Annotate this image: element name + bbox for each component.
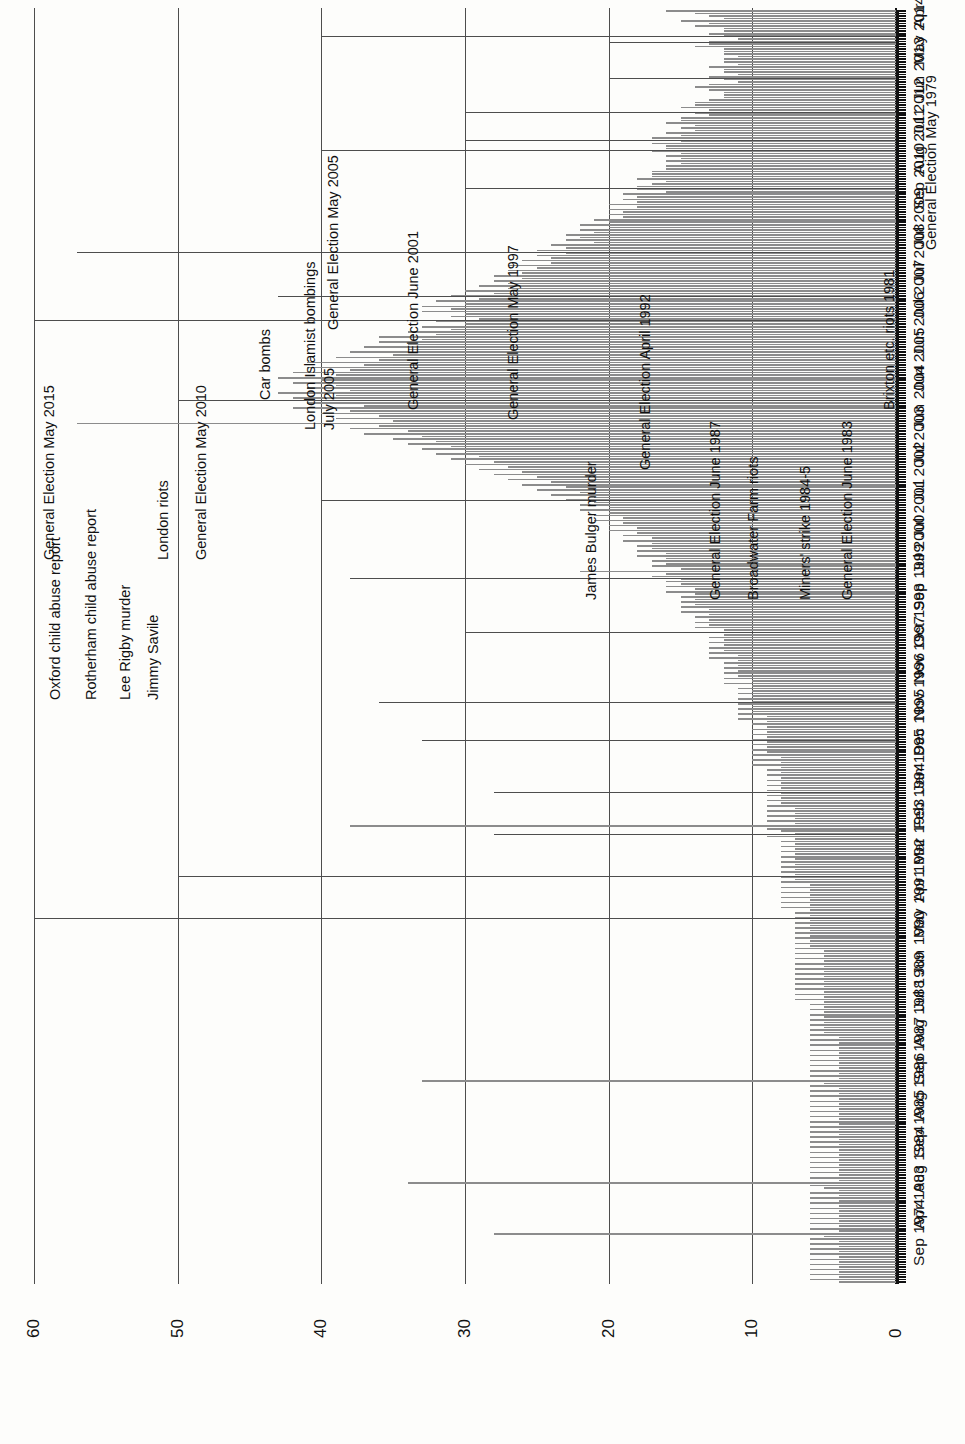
bar [695, 588, 896, 590]
bar [738, 688, 896, 690]
bar [580, 237, 896, 239]
bar [451, 446, 896, 448]
annotation-label: Broadwater Farm riots [745, 457, 761, 600]
bar [824, 971, 896, 973]
bar [436, 441, 896, 443]
bar [566, 239, 896, 241]
bar [709, 652, 896, 654]
bar [824, 976, 896, 978]
bar [709, 637, 896, 639]
annotation-leader-line [34, 320, 896, 321]
bar [637, 201, 896, 203]
bar [810, 1085, 896, 1087]
bar [681, 135, 897, 137]
bar [839, 1205, 896, 1207]
bar [839, 1073, 896, 1075]
bar [724, 48, 896, 50]
bar [436, 453, 896, 455]
bar [839, 1088, 896, 1090]
bar [752, 729, 896, 731]
bar [795, 823, 896, 825]
annotation-leader-line [350, 578, 896, 579]
annotation-leader-line [321, 36, 896, 37]
bar [537, 267, 896, 269]
bar [465, 323, 896, 325]
bar [795, 912, 896, 914]
bar [839, 1159, 896, 1161]
bar [752, 734, 896, 736]
bar [839, 1037, 896, 1039]
bar [422, 448, 896, 450]
bar [810, 1111, 896, 1113]
bar [824, 950, 896, 952]
bar [709, 642, 896, 644]
bar [810, 925, 896, 927]
bar [795, 978, 896, 980]
annotation-leader-line [465, 632, 896, 633]
bar [810, 1019, 896, 1021]
bar [594, 232, 896, 234]
bar [479, 469, 896, 471]
bar [810, 1243, 896, 1245]
bar [795, 879, 896, 881]
bar [810, 894, 896, 896]
bar [810, 1172, 896, 1174]
bar [724, 69, 896, 71]
bar [465, 313, 896, 315]
bar [652, 137, 896, 139]
bar [364, 433, 896, 435]
bar [781, 841, 896, 843]
bar [810, 1238, 896, 1240]
bar [724, 94, 896, 96]
bar [695, 627, 896, 629]
bar [724, 639, 896, 641]
annotation-label: Miners' strike 1984-5 [797, 466, 813, 600]
bar [551, 244, 896, 246]
bar [781, 887, 896, 889]
bar [623, 199, 896, 201]
bar [695, 86, 896, 88]
bar [839, 1103, 896, 1105]
bar [839, 1123, 896, 1125]
bar [709, 614, 896, 616]
bar [795, 943, 896, 945]
bar [752, 744, 896, 746]
bar [652, 537, 896, 539]
bar [695, 46, 896, 48]
bar [795, 869, 896, 871]
bar [767, 836, 896, 838]
bar [839, 1251, 896, 1253]
bar [810, 1274, 896, 1276]
bar [795, 864, 896, 866]
bar [681, 107, 897, 109]
bar [465, 464, 896, 466]
bar [666, 132, 896, 134]
bar [767, 751, 896, 753]
bar [839, 1215, 896, 1217]
bar [839, 1164, 896, 1166]
bar [336, 418, 896, 420]
bar [709, 99, 896, 101]
bar [695, 13, 896, 15]
bar [839, 1052, 896, 1054]
bar [494, 280, 896, 282]
bar [767, 795, 896, 797]
bar [637, 196, 896, 198]
bar [637, 545, 896, 547]
bar [494, 461, 896, 463]
bar [709, 657, 896, 659]
bar [724, 97, 896, 99]
bar [752, 685, 896, 687]
bar [767, 828, 896, 830]
annotation-leader-line [178, 400, 896, 401]
bar [752, 754, 896, 756]
bar [681, 117, 897, 119]
bar [810, 1213, 896, 1215]
annotation-label: Car bombs [257, 329, 273, 400]
bar [810, 1248, 896, 1250]
bar [810, 1116, 896, 1118]
bar [709, 647, 896, 649]
bar [508, 466, 896, 468]
bar [637, 532, 896, 534]
bar [810, 935, 896, 937]
